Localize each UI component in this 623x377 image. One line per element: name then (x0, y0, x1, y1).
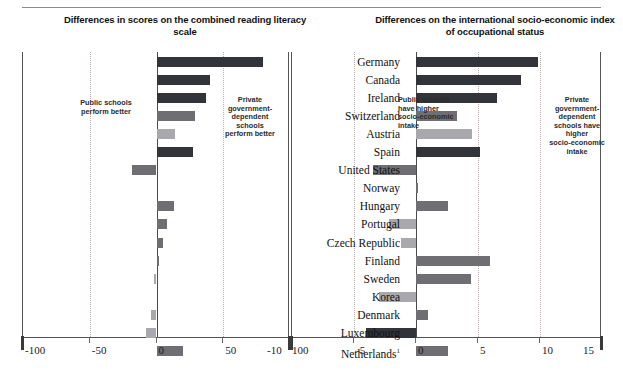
axis-tick (21, 336, 24, 350)
bar (416, 183, 418, 193)
axis-tick-label: 0 (418, 344, 424, 356)
left-axis: -100-50050100 (22, 338, 289, 364)
axis-tick-label: -10 (267, 344, 282, 356)
country-label: Sweden (364, 273, 400, 286)
axis-tick-label: 0 (159, 344, 165, 356)
bar (157, 238, 164, 248)
gridline (90, 52, 91, 337)
chart-figure: Differences in scores on the combined re… (0, 0, 623, 377)
bar (157, 75, 210, 85)
country-label: Korea (372, 291, 400, 304)
axis-tick (353, 338, 354, 343)
axis-tick (89, 338, 90, 343)
bar (146, 328, 157, 338)
bar (416, 129, 472, 139)
bar (157, 93, 206, 103)
axis-tick-label: 50 (225, 344, 236, 356)
country-label: Denmark (357, 309, 400, 322)
bar (154, 274, 157, 284)
note-private-schools-perform-better: Private government- dependent schools pe… (214, 96, 286, 139)
country-label: United States (338, 164, 400, 177)
left-panel-title: Differences in scores on the combined re… (60, 14, 310, 38)
country-label: Austria (366, 128, 400, 141)
axis-tick-label: -5 (356, 344, 365, 356)
header-divider (22, 7, 601, 8)
axis-tick (539, 338, 540, 343)
right-axis: -10-5051015 (291, 338, 601, 364)
axis-tick-label: -50 (92, 344, 107, 356)
axis-tick (600, 336, 603, 350)
gridline (540, 52, 541, 337)
right-panel-title: Differences on the international socio-e… (370, 14, 620, 38)
axis-tick (477, 338, 478, 343)
country-label: Finland (365, 255, 400, 268)
bar (416, 256, 490, 266)
country-label: Hungary (360, 200, 400, 213)
bar (157, 201, 174, 211)
gridline (223, 52, 224, 337)
bar (157, 57, 264, 67)
note-public-higher-intake: Public schools have higher socio-economi… (398, 96, 476, 130)
country-label: Germany (357, 56, 400, 69)
bar (416, 75, 521, 85)
bar (416, 201, 448, 211)
axis-tick (290, 336, 293, 350)
axis-tick (415, 338, 416, 343)
bar (151, 310, 156, 320)
axis-tick (156, 338, 157, 343)
bar (416, 310, 428, 320)
country-label: Switzerland (345, 110, 400, 123)
axis-tick-label: 5 (480, 344, 486, 356)
bar (157, 111, 196, 121)
axis-tick (222, 338, 223, 343)
bar (157, 147, 193, 157)
country-label: Czech Republic (327, 237, 400, 250)
bar (416, 57, 538, 67)
note-private-higher-intake: Private government- dependent schools ha… (538, 96, 616, 156)
note-public-schools-perform-better: Public schools perform better (56, 99, 156, 116)
bar (416, 147, 480, 157)
country-label: Norway (363, 182, 400, 195)
country-label: Canada (366, 74, 400, 87)
country-label: Spain (374, 146, 400, 159)
axis-tick-label: 10 (542, 344, 553, 356)
bar (157, 256, 160, 266)
axis-tick-label: 15 (583, 344, 594, 356)
axis-tick-label: -100 (25, 344, 45, 356)
bar (157, 219, 168, 229)
country-label: Portugal (361, 218, 400, 231)
bar (157, 129, 176, 139)
country-label: Ireland (367, 92, 400, 105)
bar (416, 274, 471, 284)
bar (132, 165, 156, 175)
country-label-column: GermanyCanadaIrelandSwitzerlandAustriaSp… (289, 52, 404, 338)
